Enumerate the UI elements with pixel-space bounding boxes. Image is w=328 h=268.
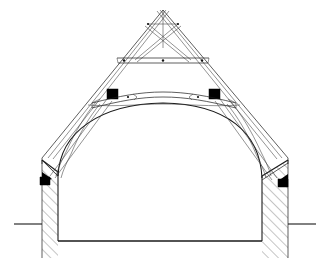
left-strut-b xyxy=(55,101,112,178)
right-rafter-lower-face xyxy=(160,10,282,158)
collar-peg-right xyxy=(201,59,203,61)
right-rafter-upper-face xyxy=(163,10,288,158)
vault-soffit-curve xyxy=(58,103,262,178)
scissor-brace-right xyxy=(148,24,191,60)
scissor-brace-left xyxy=(135,24,178,60)
tie-peg-right xyxy=(197,96,199,98)
left-rafter-lower-face xyxy=(48,10,166,158)
scissor-brace-left-b xyxy=(137,26,181,62)
joint-peg-apex-left xyxy=(147,23,149,25)
scissor-braces xyxy=(135,10,191,62)
right-wall-hatch xyxy=(262,160,288,258)
collar-peg-centre xyxy=(162,59,164,61)
right-arch-brace-outer xyxy=(231,102,271,176)
right-wall xyxy=(262,160,288,258)
scissor-brace-right-b xyxy=(145,26,189,62)
joint-peg-apex-right xyxy=(177,23,179,25)
drawing-canvas xyxy=(0,0,328,268)
left-principal-rafter xyxy=(42,10,169,159)
right-arch-brace xyxy=(215,99,277,180)
upper-collar-beam xyxy=(117,58,209,63)
right-principal-rafter xyxy=(157,10,288,159)
upper-collar-left-end xyxy=(117,58,118,63)
roof-truss-section-drawing xyxy=(0,0,328,268)
collar-peg-left xyxy=(123,59,125,61)
left-rafter-upper-face xyxy=(42,10,163,158)
tie-peg-left xyxy=(127,96,129,98)
left-arch-brace-outer xyxy=(56,102,96,176)
left-rafter-inner-line xyxy=(53,11,169,159)
right-rafter-inner-line xyxy=(157,11,277,159)
upper-collar-right-end xyxy=(208,58,209,63)
right-strut-b xyxy=(215,101,272,180)
